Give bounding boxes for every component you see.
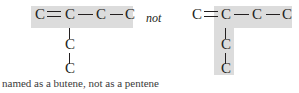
right-bond-c1-c2-upper bbox=[204, 11, 218, 12]
right-bond-c3-c4 bbox=[266, 14, 280, 15]
left-bond-c1-c2-upper bbox=[47, 11, 61, 12]
left-atom-c3: C bbox=[95, 7, 107, 22]
alkene-naming-figure: C C C C C C not C C C C C C named as a b… bbox=[0, 0, 299, 93]
left-atom-c1: C bbox=[34, 7, 46, 22]
connective-not: not bbox=[146, 12, 161, 24]
right-atom-c2: C bbox=[220, 7, 232, 22]
right-atom-c3: C bbox=[251, 7, 263, 22]
left-atom-c2: C bbox=[64, 7, 76, 22]
left-bond-c2-c3 bbox=[78, 14, 93, 15]
left-bond-c1-c2-lower bbox=[47, 16, 61, 17]
left-parent-chain-highlight bbox=[31, 6, 133, 28]
right-bond-c2-c3 bbox=[234, 14, 249, 15]
left-atom-c4: C bbox=[124, 7, 136, 22]
right-bond-c1-c2-lower bbox=[204, 16, 218, 17]
right-atom-c4: C bbox=[281, 7, 293, 22]
right-atom-branch1: C bbox=[220, 37, 232, 52]
left-atom-branch2: C bbox=[64, 61, 76, 76]
left-bond-c3-c4 bbox=[110, 14, 123, 15]
left-atom-branch1: C bbox=[64, 37, 76, 52]
right-atom-branch2: C bbox=[220, 61, 232, 76]
figure-caption: named as a butene, not as a pentene bbox=[2, 77, 159, 90]
right-atom-c1: C bbox=[191, 7, 203, 22]
